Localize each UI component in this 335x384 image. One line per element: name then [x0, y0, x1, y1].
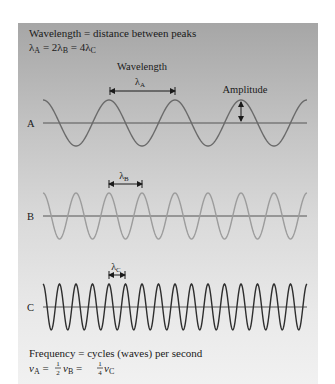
- header-line2: λA = 2λB = 4λC: [29, 41, 96, 55]
- lambda-c-label: λC: [111, 261, 121, 274]
- wave-a: A: [27, 100, 307, 146]
- lambda-a-label: λA: [135, 76, 145, 89]
- footer-line2: νA = 1 2 νB = 1 4 νC: [29, 360, 114, 377]
- wave-b: B: [27, 193, 307, 239]
- lambda-b-label: λB: [119, 170, 129, 183]
- wave-label: A: [27, 118, 35, 129]
- footer-line1: Frequency = cycles (waves) per second: [29, 347, 203, 360]
- waves-group: ABC: [27, 100, 307, 330]
- svg-text:2: 2: [56, 369, 60, 377]
- svg-text:1: 1: [98, 360, 102, 368]
- wavelength-label: Wavelength: [117, 61, 168, 72]
- wave-c: C: [27, 284, 307, 330]
- wave-label: B: [27, 211, 34, 222]
- svg-text:νB =: νB =: [63, 362, 82, 376]
- header-line1: Wavelength = distance between peaks: [29, 27, 196, 39]
- svg-text:1: 1: [56, 360, 60, 368]
- svg-text:νA =: νA =: [29, 362, 49, 376]
- svg-text:4: 4: [98, 369, 102, 377]
- wave-label: C: [27, 302, 34, 313]
- wave-diagram: Wavelength = distance between peaks λA =…: [0, 0, 335, 384]
- svg-text:νC: νC: [104, 362, 114, 376]
- amplitude-label: Amplitude: [223, 84, 268, 95]
